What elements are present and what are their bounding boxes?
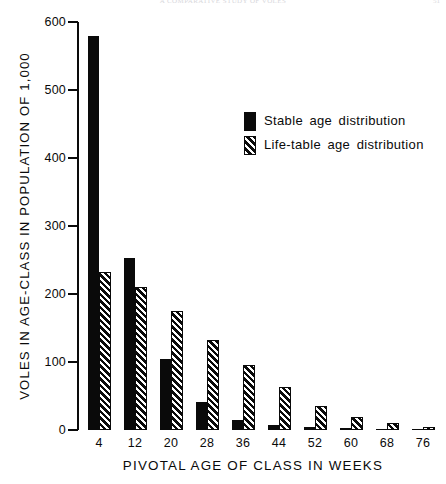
bar-stable-20 xyxy=(160,359,171,430)
bar-lifetable-36 xyxy=(243,365,255,430)
bar-stable-28 xyxy=(196,402,207,430)
x-tick-label-68: 68 xyxy=(367,436,407,450)
plot-area xyxy=(0,0,446,484)
x-tick-label-52: 52 xyxy=(295,436,335,450)
legend-solid-swatch-icon xyxy=(244,112,256,131)
bar-stable-36 xyxy=(232,420,243,430)
x-axis-title: PIVOTAL AGE OF CLASS IN WEEKS xyxy=(78,458,428,473)
x-tick-label-20: 20 xyxy=(151,436,191,450)
bar-stable-76 xyxy=(412,429,423,430)
bar-lifetable-52 xyxy=(315,406,327,430)
bar-lifetable-44 xyxy=(279,387,291,430)
bar-stable-68 xyxy=(376,429,387,430)
bar-lifetable-4 xyxy=(99,272,111,430)
x-tick-label-28: 28 xyxy=(187,436,227,450)
bar-lifetable-12 xyxy=(135,287,147,430)
bar-stable-44 xyxy=(268,425,279,430)
legend-label-lifetable: Life-table age distribution xyxy=(264,137,424,152)
x-tick-label-60: 60 xyxy=(331,436,371,450)
x-tick-label-4: 4 xyxy=(79,436,119,450)
legend-entry-stable: Stable age distribution xyxy=(244,110,444,134)
bar-lifetable-76 xyxy=(423,427,435,430)
legend-entry-lifetable: Life-table age distribution xyxy=(244,134,444,158)
bar-lifetable-20 xyxy=(171,311,183,430)
bar-stable-4 xyxy=(88,36,99,430)
bar-lifetable-60 xyxy=(351,417,363,430)
bar-stable-52 xyxy=(304,427,315,430)
bar-lifetable-68 xyxy=(387,423,399,430)
legend-hatched-swatch-icon xyxy=(244,136,256,155)
x-tick-label-12: 12 xyxy=(115,436,155,450)
x-tick-label-36: 36 xyxy=(223,436,263,450)
x-tick-label-44: 44 xyxy=(259,436,299,450)
bar-stable-12 xyxy=(124,258,135,430)
bar-lifetable-28 xyxy=(207,340,219,430)
bar-stable-60 xyxy=(340,428,351,430)
legend-label-stable: Stable age distribution xyxy=(264,113,406,128)
bar-chart-figure: A COMPARATIVE STUDY OF VOLES 51 VOLES IN… xyxy=(0,0,446,484)
x-tick-label-76: 76 xyxy=(403,436,443,450)
chart-legend: Stable age distribution Life-table age d… xyxy=(244,110,444,158)
